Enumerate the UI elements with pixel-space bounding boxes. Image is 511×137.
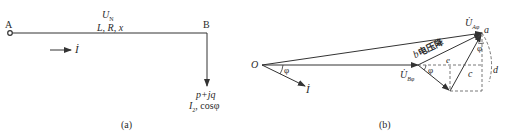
point-c-label: c bbox=[468, 69, 472, 79]
source-voltage-subscript: Aφ bbox=[472, 24, 479, 30]
load-current-pf-label: I2, cosφ bbox=[189, 101, 219, 113]
phasor-diagram bbox=[262, 33, 492, 91]
node-b-label: B bbox=[203, 20, 210, 30]
current-label-a: İ bbox=[75, 44, 79, 55]
phi-label-b: φ bbox=[428, 66, 433, 75]
phi-arc-b bbox=[424, 65, 426, 70]
phi-label-origin: φ bbox=[284, 66, 289, 75]
power-factor-text: , cosφ bbox=[195, 100, 219, 111]
point-a-label: a bbox=[484, 25, 489, 35]
point-d-label: d bbox=[493, 65, 498, 75]
node-a-terminal bbox=[8, 31, 13, 36]
origin-label: O bbox=[251, 60, 258, 70]
single-line-diagram bbox=[8, 31, 207, 86]
node-a-label: A bbox=[5, 20, 12, 30]
resistive-drop-phasor bbox=[418, 65, 449, 90]
point-e-label: e bbox=[446, 56, 450, 65]
caption-a: (a) bbox=[121, 120, 132, 130]
phi-label-a: φ bbox=[477, 44, 482, 53]
caption-b: (b) bbox=[379, 120, 391, 130]
phi-arc-origin bbox=[280, 65, 283, 74]
current-label-b: İ bbox=[306, 84, 310, 95]
load-power-label: p+jq bbox=[196, 90, 216, 100]
nominal-voltage-label: UN bbox=[102, 10, 114, 22]
line-parameters-label: L, R, x bbox=[97, 23, 123, 33]
receiving-voltage-label: U̇Bφ bbox=[400, 70, 414, 82]
source-voltage-label: U̇Aφ bbox=[465, 18, 479, 30]
receiving-voltage-subscript: Bφ bbox=[407, 76, 414, 82]
